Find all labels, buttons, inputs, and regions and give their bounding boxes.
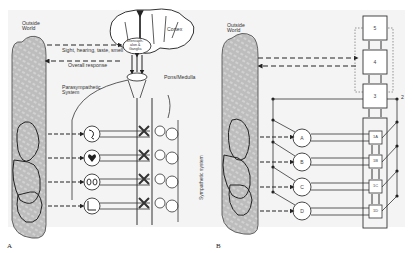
level-5-label: 5 [363, 25, 387, 31]
level-4-label: 4 [363, 59, 387, 65]
outside-world-shape-b [222, 33, 258, 234]
subunit-1b-label: 1B [369, 158, 382, 163]
senses-label: Sight, hearing, taste, smell [62, 48, 123, 53]
parasympathetic-line2: System [62, 90, 101, 95]
panel-a-letter: A [7, 243, 12, 250]
panel-b-letter: B [216, 243, 221, 250]
circle-b-label: B [293, 159, 311, 165]
diagram-canvas [0, 0, 413, 253]
subunit-1c-label: 1C [369, 183, 382, 188]
outside-world-label-b: Outside World [227, 23, 245, 34]
outside-world-b-line2: World [227, 28, 245, 33]
pons-medulla-shape [127, 73, 147, 81]
panel-a [12, 9, 194, 238]
circle-a-label: A [293, 135, 311, 141]
level-2-label: 2 [401, 95, 404, 100]
outside-world-line2: World [22, 26, 40, 31]
sympathetic-system-label: Sympathetic system [198, 155, 204, 200]
circle-c-label: C [293, 184, 311, 190]
diencephalon-label: Diencaph- alon & Ganglia [127, 40, 143, 51]
organ-rows-a [48, 126, 178, 214]
subunit-1d-label: 1D [369, 208, 382, 213]
overall-response-label: Overall response [68, 63, 107, 68]
parasympathetic-label: Parasympathetic System [62, 85, 101, 96]
pons-medulla-label: Pons/Medulla [164, 75, 195, 80]
panel-b [222, 16, 399, 234]
circle-d-label: D [293, 208, 311, 214]
level-3-label: 3 [363, 93, 387, 99]
cortex-label: Cortex [167, 27, 182, 32]
outside-world-label-a: Outside World [22, 21, 40, 32]
diencephalon-line3: Ganglia [127, 48, 143, 52]
subunit-1a-label: 1A [369, 134, 382, 139]
